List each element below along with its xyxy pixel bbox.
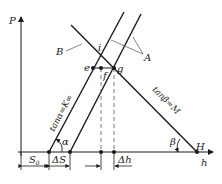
- leader-b: [66, 44, 82, 51]
- label-b: B: [55, 46, 63, 57]
- angle-beta-arc: [177, 139, 180, 152]
- label-delta-s: ΔS: [51, 154, 66, 165]
- label-g: g: [117, 63, 123, 74]
- diagram-canvas: P h H B A i e f g tanα=K∞ tanβ=: [0, 0, 222, 184]
- label-delta-h: Δh: [117, 154, 132, 165]
- h-axis-label: h: [201, 157, 207, 168]
- label-e: e: [84, 62, 90, 73]
- line-a-left: [49, 12, 124, 152]
- label-alpha: α: [62, 136, 69, 147]
- label-a: A: [143, 52, 151, 63]
- label-tan-beta: tanβ=M: [151, 84, 183, 116]
- label-beta: β: [169, 136, 176, 147]
- point-h: [195, 150, 199, 154]
- point-e: [91, 66, 95, 70]
- line-b: [71, 25, 197, 152]
- point-g: [112, 66, 116, 70]
- p-axis-label: P: [8, 15, 16, 26]
- label-i: i: [98, 42, 101, 53]
- label-s0: S0: [29, 154, 40, 166]
- leader-a: [111, 37, 143, 54]
